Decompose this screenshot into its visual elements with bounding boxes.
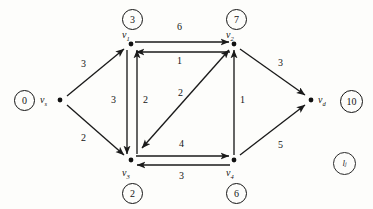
edge-weight-v3-v1: 2 (143, 95, 148, 105)
edge-weight-v2-vd: 3 (278, 58, 283, 68)
node-label-v3: v3 (122, 168, 130, 181)
node-label-v4: v4 (226, 168, 234, 181)
node-dot-vs[interactable] (58, 98, 63, 103)
node-value-v4: 6 (226, 183, 247, 204)
node-label-v2: v2 (226, 30, 234, 43)
node-label-vs: vs (40, 95, 47, 108)
node-value-v2: 7 (226, 9, 247, 30)
node-value-vs: 0 (14, 90, 35, 111)
edge-weight-vs-v3: 2 (81, 133, 86, 143)
node-label-v1: v1 (122, 30, 130, 43)
edge-weight-v3-v4: 4 (179, 139, 184, 149)
edge-weight-v1-v2: 6 (177, 22, 182, 32)
edge-weight-vs-v1: 3 (81, 59, 86, 69)
node-value-vd: 10 (340, 90, 363, 113)
edge-weight-v4-v2: 1 (240, 95, 245, 105)
node-value-v3: 2 (122, 183, 143, 204)
edge-v4-vd (240, 105, 305, 155)
edge-weight-v2-v3: 2 (178, 88, 183, 98)
edge-v2-vd (240, 49, 305, 95)
edge-weight-v4-vd: 5 (278, 140, 283, 150)
legend-label-badge: lj (333, 152, 356, 175)
edge-vs-v1 (67, 49, 124, 96)
edge-vs-v3 (67, 105, 124, 155)
node-value-v1: 3 (122, 9, 143, 30)
edge-weight-v2-v1: 1 (177, 56, 182, 66)
node-dot-vd[interactable] (309, 98, 314, 103)
edge-weight-v1-v3: 3 (111, 95, 116, 105)
edge-weight-v4-v3: 3 (179, 171, 184, 181)
node-dot-v3[interactable] (129, 158, 134, 163)
edge-v2-v3 (142, 50, 229, 148)
node-label-vd: vd (318, 95, 326, 108)
node-dot-v4[interactable] (232, 158, 237, 163)
diagram-canvas: vs v1 v2 v3 v4 vd 0 3 7 2 6 10 3 2 6 1 3… (0, 0, 373, 209)
